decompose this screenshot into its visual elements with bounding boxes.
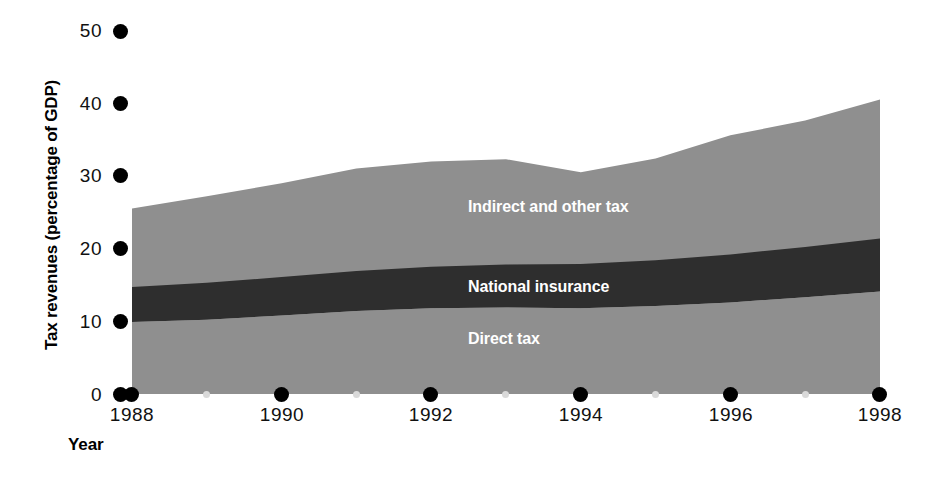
x-tick-dot-1994 — [573, 387, 588, 402]
x-tick-label-1992: 1992 — [391, 404, 471, 426]
x-tick-label-1996: 1996 — [691, 404, 771, 426]
x-tick-dot-1990 — [274, 387, 289, 402]
x-tick-label-1990: 1990 — [242, 404, 322, 426]
series-label-direct-tax: Direct tax — [468, 330, 540, 348]
x-tick-dot-1993 — [502, 391, 509, 398]
x-axis-title: Year — [68, 435, 104, 455]
series-label-indirect-and-other-tax: Indirect and other tax — [468, 198, 629, 216]
stacked-area-chart: Tax revenues (percentage of GDP) 50 40 3… — [0, 0, 938, 478]
x-tick-dot-1998 — [872, 387, 887, 402]
x-tick-label-1994: 1994 — [541, 404, 621, 426]
x-tick-dot-1995 — [652, 391, 659, 398]
x-tick-dot-1996 — [723, 387, 738, 402]
x-tick-dot-1988 — [124, 387, 139, 402]
x-tick-label-1988: 1988 — [92, 404, 172, 426]
series-label-national-insurance: National insurance — [468, 278, 609, 296]
x-tick-dot-1989 — [203, 391, 210, 398]
x-tick-label-1998: 1998 — [840, 404, 920, 426]
x-tick-dot-1992 — [423, 387, 438, 402]
x-tick-dot-1997 — [802, 391, 809, 398]
x-tick-dot-1991 — [353, 391, 360, 398]
